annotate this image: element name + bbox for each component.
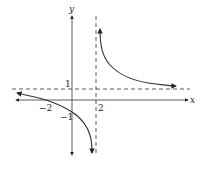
y-axis-label: y (68, 4, 75, 14)
x-axis-label: x (190, 95, 195, 105)
tick-label-x-neg2: −2 (39, 103, 52, 113)
left-branch-curve (17, 93, 92, 153)
rational-function-graph: y x 1 2 −2 −1 (0, 0, 203, 170)
tick-label-y-neg1: −1 (60, 112, 73, 122)
tick-label-x-2: 2 (98, 103, 104, 113)
tick-label-y-1: 1 (65, 79, 71, 89)
right-branch-curve (100, 29, 176, 86)
